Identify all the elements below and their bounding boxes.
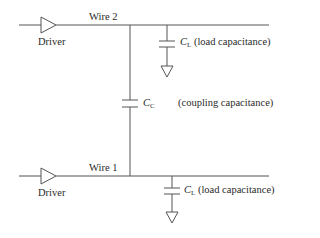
load-cap-2-label: CL (load capacitance) [180,37,271,49]
load-cap-1-symbol: C [184,184,191,195]
load-cap-1-description: (load capacitance) [198,184,275,195]
coupling-cap-subscript: C [150,102,155,110]
coupling-cap-description: (coupling capacitance) [178,98,273,109]
load-cap-2-description: (load capacitance) [194,36,271,47]
wire-2-label: Wire 2 [89,12,117,23]
wire-1-label: Wire 1 [89,163,117,174]
coupling-cap-symbol: C [143,97,150,108]
coupling-cap-label: CC [143,98,155,110]
driver-2-label: Driver [38,37,65,48]
load-cap-1-subscript: L [191,189,195,197]
load-cap-2-subscript: L [187,41,191,49]
load-cap-2-symbol: C [180,36,187,47]
driver-1-label: Driver [38,188,65,199]
ground-1-icon [166,212,178,223]
driver-1-icon [41,168,56,184]
load-cap-1-label: CL (load capacitance) [184,185,275,197]
driver-2-icon [41,17,56,33]
ground-2-icon [161,66,173,77]
